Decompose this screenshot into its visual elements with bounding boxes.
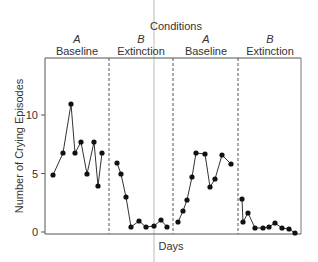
data-point — [228, 161, 233, 166]
data-point — [72, 150, 77, 155]
y-tick-label: 0 — [32, 226, 38, 238]
data-point — [252, 225, 257, 230]
phase-name: Extinction — [246, 45, 294, 57]
data-point — [292, 230, 297, 235]
data-point — [128, 224, 133, 229]
data-point — [118, 171, 123, 176]
data-point — [91, 139, 96, 144]
data-point — [180, 208, 185, 213]
phase-name: Baseline — [185, 45, 227, 57]
data-point — [50, 172, 55, 177]
phase-name: Baseline — [56, 45, 98, 57]
data-point — [240, 219, 245, 224]
data-point — [212, 176, 217, 181]
data-point — [78, 139, 83, 144]
chart-title: Conditions — [150, 20, 202, 32]
data-point — [239, 196, 244, 201]
data-point — [175, 219, 180, 224]
data-point — [272, 220, 277, 225]
data-point — [151, 223, 156, 228]
series-4 — [239, 196, 297, 235]
data-point — [219, 152, 224, 157]
phase-letter: B — [137, 33, 144, 45]
series-1 — [50, 101, 104, 188]
phase-dividers — [109, 58, 238, 234]
phase-labels: ABaselineBExtinctionABaselineBExtinction — [56, 33, 294, 57]
phase-name: Extinction — [117, 45, 165, 57]
y-ticks: 0510 — [26, 109, 45, 238]
phase-letter: A — [72, 33, 80, 45]
single-subject-design-chart: Conditions ABaselineBExtinctionABaseline… — [0, 0, 318, 262]
data-point — [84, 171, 89, 176]
data-point — [202, 151, 207, 156]
phase-letter: A — [201, 33, 209, 45]
data-point — [260, 225, 265, 230]
data-point — [60, 150, 65, 155]
data-point — [266, 224, 271, 229]
data-point — [158, 217, 163, 222]
series-3 — [175, 150, 233, 224]
data-point — [68, 101, 73, 106]
data-point — [245, 210, 250, 215]
data-point — [99, 150, 104, 155]
data-point — [143, 224, 148, 229]
data-point — [95, 183, 100, 188]
y-tick-label: 10 — [26, 109, 38, 121]
data-point — [193, 150, 198, 155]
data-point — [279, 225, 284, 230]
y-tick-label: 5 — [32, 168, 38, 180]
data-point — [286, 226, 291, 231]
data-point — [189, 174, 194, 179]
data-point — [123, 194, 128, 199]
data-point — [207, 184, 212, 189]
series-2 — [114, 160, 169, 229]
data-point — [136, 218, 141, 223]
data-point — [114, 160, 119, 165]
y-axis-label: Number of Crying Episodes — [13, 78, 25, 213]
x-axis-label: Days — [158, 240, 184, 252]
phase-letter: B — [266, 33, 273, 45]
data-point — [164, 224, 169, 229]
data-point — [184, 197, 189, 202]
data-series — [50, 101, 297, 235]
